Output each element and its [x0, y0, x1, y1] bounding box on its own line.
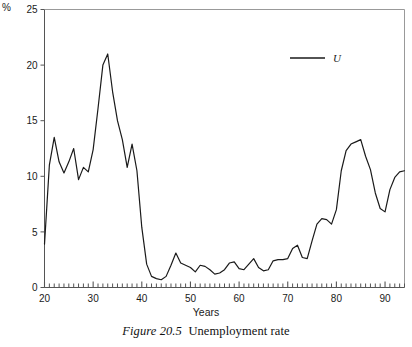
y-axis-ticks: 0510152025 — [26, 4, 44, 293]
figure-container: % 0510152025 2030405060708090 U Years Fi… — [0, 0, 412, 347]
series-line-u — [45, 54, 405, 280]
figure-number: Figure 20.5 — [122, 324, 182, 338]
y-tick-label: 5 — [32, 227, 38, 238]
x-tick-label: 90 — [379, 293, 391, 304]
x-tick-label: 20 — [39, 293, 51, 304]
figure-caption-text: Unemployment rate — [188, 324, 289, 338]
y-tick-label: 25 — [26, 4, 38, 15]
x-tick-label: 40 — [136, 293, 148, 304]
unemployment-rate-line-chart: 0510152025 2030405060708090 U Years — [0, 0, 412, 347]
x-tick-label: 70 — [282, 293, 294, 304]
figure-caption: Figure 20.5 Unemployment rate — [0, 324, 412, 339]
x-axis-minor-ticks — [49, 284, 404, 288]
legend-label: U — [333, 52, 342, 64]
x-tick-label: 50 — [185, 293, 197, 304]
y-tick-label: 15 — [26, 115, 38, 126]
x-tick-label: 30 — [88, 293, 100, 304]
x-tick-label: 60 — [234, 293, 246, 304]
plot-frame — [45, 10, 405, 288]
x-tick-label: 80 — [331, 293, 343, 304]
y-tick-label: 10 — [26, 171, 38, 182]
y-tick-label: 20 — [26, 60, 38, 71]
chart-legend: U — [290, 52, 342, 64]
y-tick-label: 0 — [32, 282, 38, 293]
data-series-group — [45, 54, 405, 280]
x-axis-title: Years — [193, 306, 219, 318]
